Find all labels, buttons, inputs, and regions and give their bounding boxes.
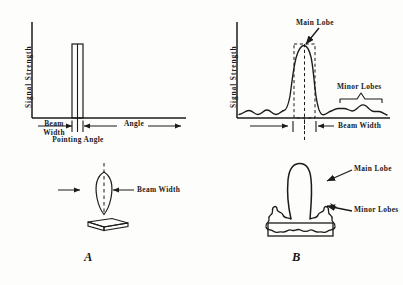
panel-a-y-axis-label: Signal Strength	[24, 46, 33, 108]
panel-a-pointing-angle-label: Pointing Angle	[43, 136, 113, 144]
panel-b-antenna-drawing	[266, 163, 352, 236]
panel-b-main-lobe-chart-label: Main Lobe	[296, 19, 334, 27]
panel-a-letter: A	[84, 250, 92, 265]
panel-b-measure-row	[250, 121, 334, 132]
panel-b-main-lobe-callout	[306, 28, 319, 44]
panel-a-antenna-drawing	[58, 163, 134, 231]
panel-a-beam-width-label-line1: Beam	[38, 120, 70, 128]
panel-b-y-axis-label: Signal Strength	[229, 46, 238, 108]
panel-b-minor-lobes-bracket	[340, 93, 382, 103]
panel-b-letter: B	[292, 250, 300, 265]
panel-a-beam-width-callout-label: Beam Width	[137, 186, 180, 194]
panel-a-angle-label: Angle	[119, 120, 149, 128]
panel-b-beam-width-label: Beam Width	[338, 122, 381, 130]
panel-b-main-lobe-antenna-label: Main Lobe	[354, 165, 392, 173]
panel-b-pattern-trace	[239, 46, 387, 116]
panel-a-chart-axes	[32, 22, 186, 118]
panel-b-minor-lobes-antenna-label: Minor Lobes	[354, 206, 399, 214]
panel-b-minor-lobes-chart-label: Minor Lobes	[337, 83, 382, 91]
panel-a-ideal-beam-pulse	[72, 44, 83, 132]
figure-antenna-patterns: Signal Strength Beam Width Angle Pointin…	[0, 0, 403, 285]
